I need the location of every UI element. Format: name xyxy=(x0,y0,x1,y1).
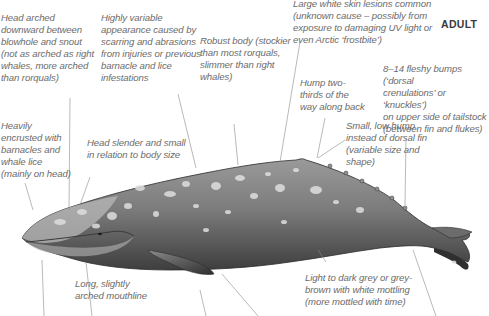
annotation-mouthline: Long, slightly arched mouthline xyxy=(75,278,147,302)
annotation-low-hump: Small, low hump instead of dorsal fin (v… xyxy=(346,120,427,168)
annotation-skin-lesions: Large white skin lesions common (unknown… xyxy=(293,0,432,46)
age-class-heading: ADULT xyxy=(441,18,477,30)
annotation-coloration: Light to dark grey or grey- brown with w… xyxy=(305,272,412,308)
annotation-barnacles: Heavily encrusted with barnacles and wha… xyxy=(1,120,71,180)
annotation-head-arched: Head arched downward between blowhole an… xyxy=(1,12,94,84)
annotation-variable-appearance: Highly variable appearance caused by sca… xyxy=(101,12,201,84)
annotation-head-slender: Head slender and small in relation to bo… xyxy=(87,137,186,161)
annotation-robust-body: Robust body (stockier than most rorquals… xyxy=(200,35,291,83)
eye xyxy=(98,233,102,236)
annotation-hump-position: Hump two- thirds of the way along back xyxy=(300,77,365,113)
